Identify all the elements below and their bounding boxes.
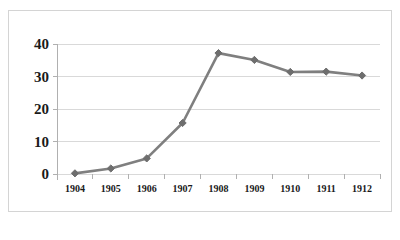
x-axis-tick-label: 1909 — [234, 183, 274, 195]
x-tickmarks-group — [57, 174, 380, 179]
data-line — [75, 53, 362, 173]
data-point-marker-1905 — [107, 165, 114, 172]
x-axis-tick-label: 1912 — [342, 183, 382, 195]
data-point-marker-1910 — [287, 68, 294, 75]
x-axis-tick-label: 1906 — [127, 183, 167, 195]
data-point-marker-1912 — [358, 72, 365, 79]
y-axis-tick-label: 0 — [19, 166, 49, 182]
y-axis-tick-label: 40 — [19, 36, 49, 52]
data-markers-group — [71, 50, 365, 177]
x-axis-tick-label: 1907 — [163, 183, 203, 195]
x-axis-tick-label: 1908 — [199, 183, 239, 195]
x-axis-tick-label: 1910 — [270, 183, 310, 195]
axis-group — [53, 44, 57, 180]
data-line-group — [75, 53, 362, 173]
data-point-marker-1904 — [71, 170, 78, 177]
data-point-marker-1911 — [323, 68, 330, 75]
y-axis-tick-label: 30 — [19, 69, 49, 85]
y-axis-tick-label: 20 — [19, 101, 49, 117]
x-axis-tick-label: 1904 — [55, 183, 95, 195]
data-point-marker-1909 — [251, 56, 258, 63]
x-axis-tick-label: 1911 — [306, 183, 346, 195]
x-axis-tick-label: 1905 — [91, 183, 131, 195]
y-axis-tick-label: 10 — [19, 134, 49, 150]
gridlines-group — [57, 44, 380, 174]
